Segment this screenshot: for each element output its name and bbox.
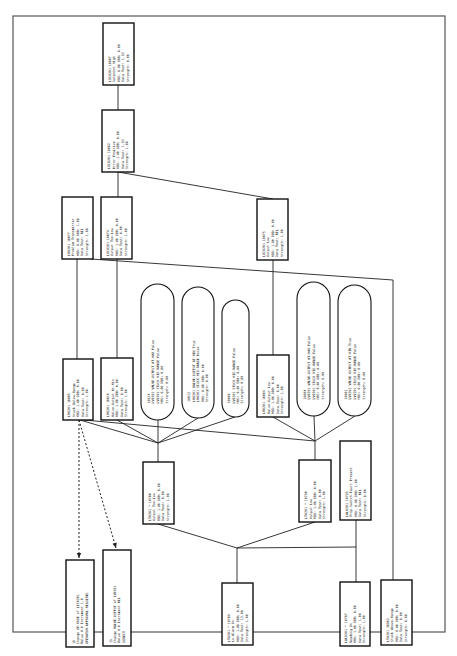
node-label-line: Data Test: 13.00: [240, 610, 244, 642]
inference-edge: [117, 420, 158, 443]
hypothesis-node[interactable]: LV0201 10805Stuck Below-RangeMBD: 1.00 D…: [63, 359, 93, 420]
hypothesis-node[interactable]: LIC0201 10874Output Too-LowMBD: 1.00 DBB…: [101, 197, 132, 259]
node-label-line: Strength: 1.00: [125, 141, 129, 169]
action-node[interactable]: 16Change OP-MODE of LIC0201Value 0.0 Inc…: [66, 560, 94, 647]
hypothesis-node[interactable]: LV0201 10877Problem TransmitterMBD: 0.00…: [62, 197, 93, 259]
node-label-line: Output Too-Low: [152, 493, 156, 521]
node-label-line: Valve-Output Low: [267, 382, 271, 414]
node-label-line: Strength: 0.00: [240, 376, 244, 404]
node-label-line: MBD: 1.00 DBB: 0.00: [115, 218, 119, 256]
rule-node[interactable]: 10804LV0201 VALVE-OUTPUT AT-MAX FalseLV0…: [297, 282, 330, 416]
node-label-line: MBD: 0.00 DBB: 1.00: [76, 218, 80, 256]
node-label-line: Stuck Below-Range: [72, 383, 76, 417]
node-label-line: LAL0201 10795: [345, 491, 349, 517]
rule-node[interactable]: 10812LV0201 VALVE-OUTPUT AT-MIN TrueLV02…: [182, 287, 214, 418]
hypothesis-node[interactable]: LIC0201 10882Error PositiveMBD: 1.00 DBB…: [102, 110, 134, 172]
node-label-line: MBD: 1.00 DBB: 0.00: [271, 219, 275, 257]
node-label-line: Stuck Above-Range: [390, 608, 394, 642]
hypothesis-node[interactable]: LIC0201 10875Output LowMBD: 1.00 DBB: 0.…: [257, 199, 288, 260]
node-label-line: Output Too-Low: [110, 228, 114, 256]
node-label-line: LAL0201 * 10787: [344, 613, 348, 643]
hypothesis-node[interactable]: LT0201 * 10788Output Too-LowMBD: 1.00 DB…: [143, 462, 174, 524]
hypothesis-node[interactable]: LT0201 * 10790Output LowMBD: 1.00 DBB: 0…: [299, 460, 331, 522]
node-label-line: LV0201 10804: [262, 390, 266, 414]
node-label-line: Lo-Alarm On: [231, 620, 235, 642]
inference-edge: [158, 524, 237, 548]
node-label-line: MBD: 1.00 DBB: 0.00: [353, 605, 357, 643]
inference-edge: [118, 172, 273, 199]
node-label-line: LV0201 VALVE-OUTPUT AT-MAX False: [151, 340, 155, 404]
inference-edge: [314, 416, 315, 441]
node-label-line: MBD: 1.00 DBB: 0.00: [76, 379, 80, 417]
rule-node[interactable]: 10808LV0201 STUCK MID-RANGE FalseMBD: 0.…: [222, 300, 249, 417]
node-label-line: LV0201 STUCK MID-RANGE False: [312, 344, 316, 400]
hypothesis-node[interactable]: LV0201 10804Valve-Output LowMBD: 1.00 DB…: [257, 355, 289, 417]
rule-node[interactable]: 10814LV0201 VALVE-OUTPUT AT-MAX FalseLV0…: [141, 284, 174, 420]
node-label-line: Strength: 0.00: [362, 372, 366, 400]
node-label-line: Strength: 0.00: [126, 54, 130, 82]
inference-edge: [315, 416, 355, 441]
node-label-line: 10801: [344, 390, 348, 400]
node-label-line: Strength: 1.00: [362, 615, 366, 643]
arrowhead-icon: [77, 553, 81, 558]
node-label-line: LV0201 STUCK MID-RANGE False: [156, 348, 160, 404]
node-label-line: Data Test: 1.00: [358, 613, 362, 643]
node-label-line: Change OP-MODE of LIC0201: [76, 594, 80, 644]
node-label-line: MBD: 0.00 DBB: 0.00: [316, 362, 320, 400]
inference-edge: [237, 522, 315, 548]
node-label-line: OPERATOR-APPROVAL-REQUIRED: [85, 592, 89, 644]
action-node[interactable]: 15Change VALVE-OUTPUT of LV0201Value 0.0…: [103, 550, 131, 646]
node-label-line: Strength: 1.00: [85, 228, 89, 256]
node-label-line: DIRECT: [122, 631, 126, 643]
node-label-line: Strength: 1.00: [85, 389, 89, 417]
node-label-line: LIC0201 10875: [262, 231, 266, 257]
node-label-line: Trip-Switch-Fault Present: [349, 467, 353, 517]
inference-edge: [158, 418, 198, 443]
node-label-line: MBD: 0.00 DBB: 0.00: [357, 362, 361, 400]
node-label-line: LV0201 VALVE-OUTPUT AT-MIN True: [348, 338, 352, 400]
node-label-line: LV0201 VALVE-OUTPUT AT-MIN True: [192, 340, 196, 402]
action-link-edge: [79, 420, 116, 548]
rule-node[interactable]: 10801LV0201 VALVE-OUTPUT AT-MIN TrueLV02…: [338, 285, 371, 416]
hypothesis-node[interactable]: LAL0201 * 10787Reading OnMBD: 1.00 DBB: …: [340, 582, 370, 646]
node-label-line: 10804: [303, 390, 307, 400]
node-label-line: Data Test: 0.00: [276, 384, 280, 414]
node-label-line: MBD: 1.00 DBB: 0.00: [115, 379, 119, 417]
node-label-line: 10812: [187, 392, 191, 402]
node-label-line: Data Test: 0.00: [399, 612, 403, 642]
node-label-line: Data Test: NIL: [80, 228, 84, 256]
node-label-line: Strength: 0.00: [165, 376, 169, 404]
node-label-line: MBD: 0.00 DBB: 0.00: [236, 366, 240, 404]
node-label-line: Valve-Output At-Min: [111, 379, 115, 417]
node-label-line: Strength: 1.00: [322, 491, 326, 519]
node-label-line: LV0201 10816: [106, 393, 110, 417]
node-label-line: Reading On: [349, 623, 353, 643]
node-label-line: Strength: 1.00: [124, 389, 128, 417]
node-label-line: MBD: 0.00 DBB: 0.00: [160, 366, 164, 404]
node-label-line: Error Positive: [112, 141, 116, 169]
node-label-line: LV0201 10805: [67, 393, 71, 417]
node-label-line: Strength: 0.00: [321, 372, 325, 400]
hypothesis-node[interactable]: LT0201 * 10789Lo-Alarm OnMBD: 1.00 DBB: …: [222, 583, 253, 645]
node-label-line: 15: [109, 639, 113, 643]
node-label-line: Strength: 0.00: [363, 489, 367, 517]
node-label-line: MBD: 1.00 DBB: 0.00: [157, 483, 161, 521]
node-label-line: Strength: 0.00: [404, 614, 408, 642]
node-label-line: LV0201 VALVE-OUTPUT AT-MAX False: [307, 336, 311, 400]
node-label-line: Data Test: 1.93: [121, 139, 125, 169]
node-label-line: Problem Transmitter: [71, 218, 75, 256]
hypothesis-node[interactable]: LAL0201 10795Trip-Switch-Fault PresentMB…: [340, 441, 371, 520]
node-label-line: Strength: 1.00: [245, 614, 249, 642]
node-label-line: MBD: 1.00 DBB: 0.00: [116, 131, 120, 169]
node-label-line: Data Test: 0.00: [161, 491, 165, 521]
node-label-line: Strength: 1.00: [166, 493, 170, 521]
arrowhead-icon: [112, 543, 116, 548]
hypothesis-node[interactable]: LT0201 38962Stuck Above-RangeMBD: 0.00 D…: [381, 580, 412, 645]
node-label-line: MBD: 1.00 DBB: 0.00: [271, 376, 275, 414]
hypothesis-node[interactable]: LIC0201 10887Setpoint HighMBD: 0.00 DBB:…: [103, 23, 134, 85]
node-label-line: LIC0201 10874: [106, 230, 110, 256]
hypothesis-node[interactable]: LV0201 10816Valve-Output At-MinMBD: 1.00…: [101, 358, 133, 420]
node-label-line: MBD: 0.00 DBB: 1.00: [354, 479, 358, 517]
node-label-line: Data Test: 0.00: [318, 489, 322, 519]
node-label-line: Data Test: 0.00: [81, 387, 85, 417]
